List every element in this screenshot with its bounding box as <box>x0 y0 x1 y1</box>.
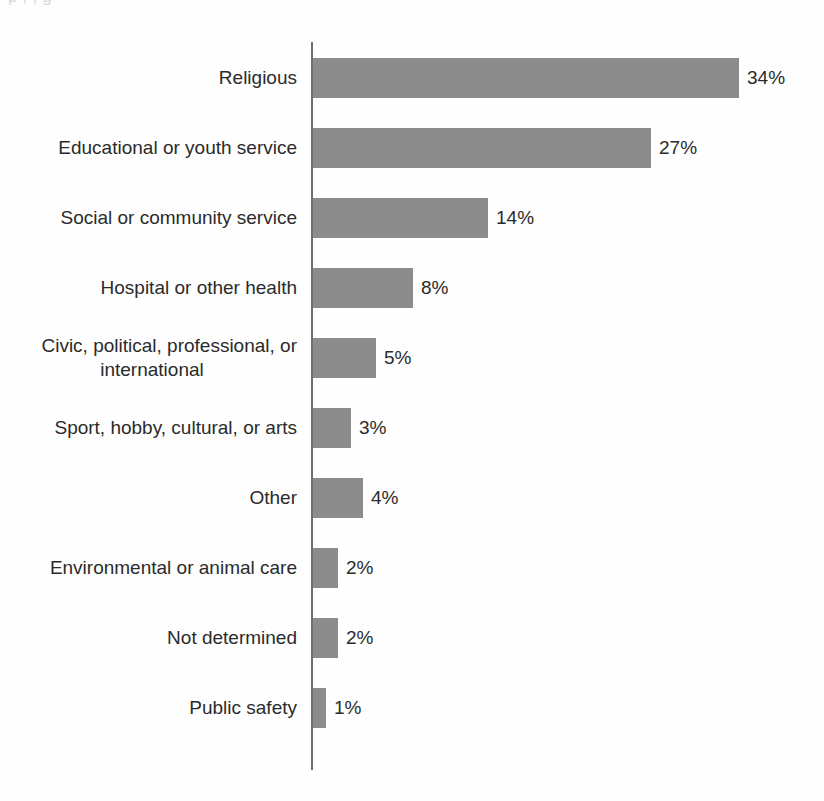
bar <box>313 268 413 308</box>
bar-value-label: 8% <box>421 277 448 299</box>
bar-value-label: 5% <box>384 347 411 369</box>
bar <box>313 198 488 238</box>
bar <box>313 618 338 658</box>
category-label: Religious <box>7 66 297 89</box>
bar-row: Environmental or animal care2% <box>0 548 824 588</box>
bar-row: Other4% <box>0 478 824 518</box>
bar-row: Civic, political, professional, orintern… <box>0 338 824 378</box>
bar-row: Sport, hobby, cultural, or arts3% <box>0 408 824 448</box>
category-label: Not determined <box>7 626 297 649</box>
bar-row: Not determined2% <box>0 618 824 658</box>
bar <box>313 338 376 378</box>
bottom-cropped-text <box>0 788 824 798</box>
bar-value-label: 14% <box>496 207 534 229</box>
bar-row: Social or community service14% <box>0 198 824 238</box>
chart-page: p , , g Religious34%Educational or youth… <box>0 0 824 801</box>
bar-row: Educational or youth service27% <box>0 128 824 168</box>
bar <box>313 548 338 588</box>
bar-row: Religious34% <box>0 58 824 98</box>
bar-value-label: 27% <box>659 137 697 159</box>
category-label: Educational or youth service <box>7 136 297 159</box>
bar-value-label: 3% <box>359 417 386 439</box>
horizontal-bar-chart: Religious34%Educational or youth service… <box>0 0 824 801</box>
bar <box>313 58 739 98</box>
category-label: Sport, hobby, cultural, or arts <box>7 416 297 439</box>
bar-value-label: 4% <box>371 487 398 509</box>
bar-row: Public safety1% <box>0 688 824 728</box>
category-label-line-1: Civic, political, professional, or <box>41 335 297 356</box>
category-label: Civic, political, professional, orintern… <box>7 334 297 382</box>
bar-value-label: 2% <box>346 627 373 649</box>
bar-value-label: 1% <box>334 697 361 719</box>
category-label: Other <box>7 486 297 509</box>
bar-row: Hospital or other health8% <box>0 268 824 308</box>
category-label-line-2: international <box>7 358 297 382</box>
category-label: Hospital or other health <box>7 276 297 299</box>
bar <box>313 688 326 728</box>
category-label: Environmental or animal care <box>7 556 297 579</box>
category-label: Public safety <box>7 696 297 719</box>
bar-value-label: 34% <box>747 67 785 89</box>
bar <box>313 128 651 168</box>
bar <box>313 478 363 518</box>
bar-value-label: 2% <box>346 557 373 579</box>
category-label: Social or community service <box>7 206 297 229</box>
bar <box>313 408 351 448</box>
